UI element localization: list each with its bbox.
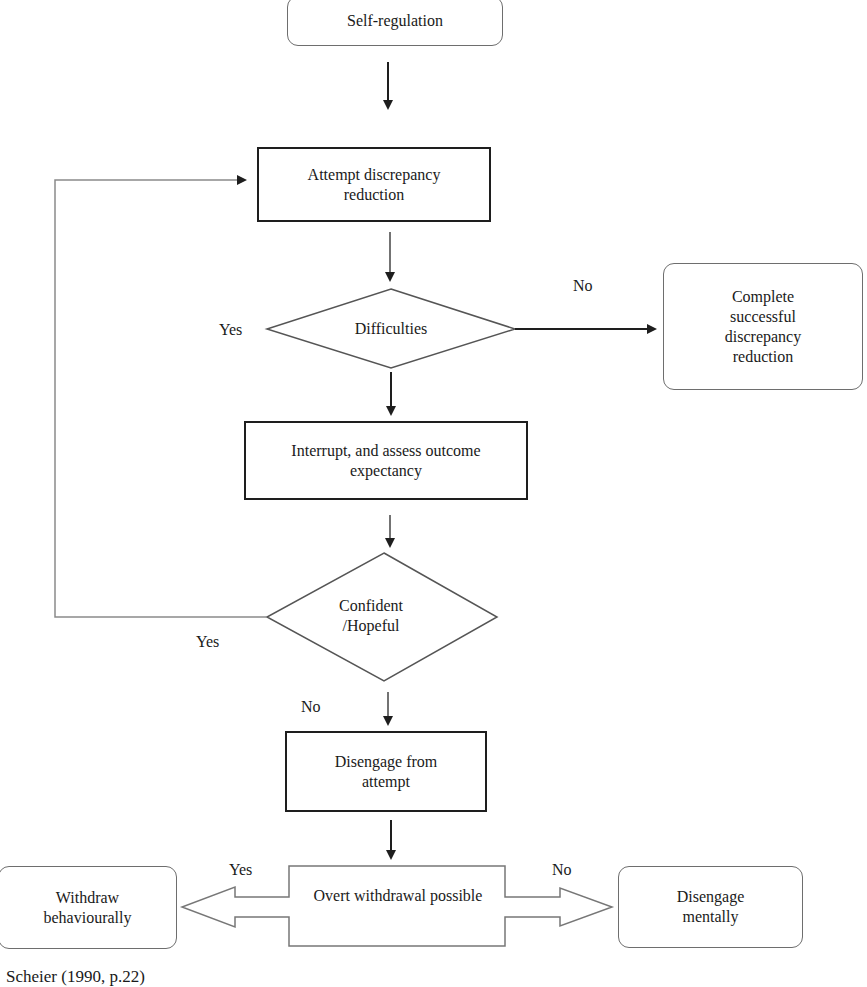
complete-reduction-text: Complete successful discrepancy reductio… <box>710 287 816 367</box>
difficulties-no-label: No <box>573 277 593 295</box>
self-regulation-node: Self-regulation <box>287 0 503 46</box>
interrupt-assess-node: Interrupt, and assess outcome expectancy <box>244 421 528 500</box>
attempt-reduction-text: Attempt discrepancy reduction <box>293 165 455 205</box>
feedback-loop-line <box>55 180 267 617</box>
disengage-attempt-node: Disengage from attempt <box>285 731 487 812</box>
disengage-mentally-text: Disengage mentally <box>667 887 754 927</box>
confident-hopeful-text: Confident /Hopeful <box>326 596 416 636</box>
self-regulation-text: Self-regulation <box>347 11 443 31</box>
figure-caption: Scheier (1990, p.22) <box>6 967 145 987</box>
withdraw-behaviourally-node: Withdraw behaviourally <box>0 866 177 949</box>
overt-no-label: No <box>552 861 572 879</box>
disengage-attempt-text: Disengage from attempt <box>313 752 459 792</box>
overt-yes-label: Yes <box>229 861 252 879</box>
complete-reduction-node: Complete successful discrepancy reductio… <box>663 263 863 390</box>
difficulties-text: Difficulties <box>321 319 461 339</box>
confident-no-label: No <box>301 698 321 716</box>
overt-withdrawal-text: Overt withdrawal possible <box>310 886 486 906</box>
disengage-mentally-node: Disengage mentally <box>618 866 803 948</box>
attempt-reduction-node: Attempt discrepancy reduction <box>257 147 491 222</box>
interrupt-assess-text: Interrupt, and assess outcome expectancy <box>286 441 486 481</box>
withdraw-behaviourally-text: Withdraw behaviourally <box>21 888 154 928</box>
confident-yes-label: Yes <box>196 633 219 651</box>
difficulties-yes-label: Yes <box>219 321 242 339</box>
